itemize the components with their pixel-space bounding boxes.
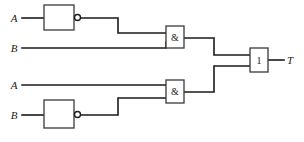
gate-body-not-top <box>44 5 74 30</box>
gate-or-out: 1 <box>250 48 268 72</box>
gate-not-top <box>44 5 81 30</box>
wire-w-and-top-to-or <box>184 38 250 55</box>
gate-label-and-bottom: & <box>171 86 179 97</box>
input-label-in-b-bottom: B <box>11 109 18 121</box>
wire-w-b-top-to-and-top <box>22 42 166 48</box>
output-label-out-t: T <box>287 54 294 66</box>
wire-w-and-bottom-to-or <box>184 66 250 92</box>
inversion-bubble-icon-not-bottom <box>75 112 81 118</box>
input-label-in-a-bottom: A <box>10 79 18 91</box>
wire-w-not-bottom-to-and-bottom <box>81 98 167 115</box>
input-label-in-b-top: B <box>11 42 18 54</box>
input-label-in-a-top: A <box>10 12 18 24</box>
logic-circuit-diagram: &&1 ABABT <box>0 0 304 142</box>
gate-body-not-bottom <box>44 100 74 128</box>
circuit-canvas: &&1 ABABT <box>0 0 304 142</box>
gate-and-top: & <box>166 26 184 48</box>
gate-not-bottom <box>44 100 81 128</box>
gate-label-or-out: 1 <box>257 55 262 66</box>
gate-and-bottom: & <box>166 80 184 103</box>
inversion-bubble-icon-not-top <box>75 15 81 21</box>
wire-w-not-top-to-and-top <box>81 18 167 33</box>
gate-label-and-top: & <box>171 32 179 43</box>
